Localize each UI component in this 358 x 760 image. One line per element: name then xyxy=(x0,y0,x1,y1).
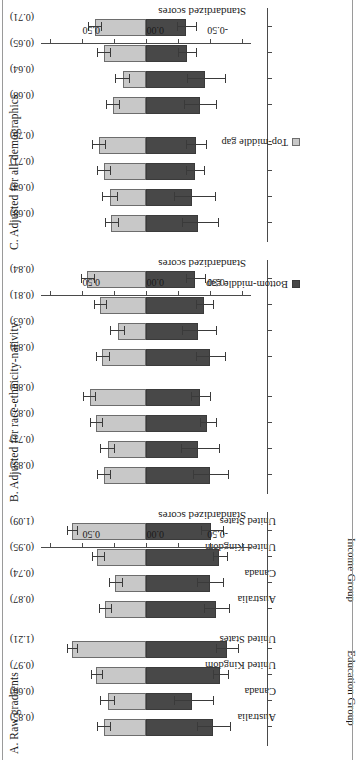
error-bar-cap xyxy=(110,327,111,336)
error-bar-cap xyxy=(97,167,98,176)
error-bar-cap xyxy=(105,219,106,228)
error-bar-cap xyxy=(196,353,197,362)
segment-top-middle-gap xyxy=(115,575,146,592)
value-tick xyxy=(146,39,147,44)
panel-c: C. Adjusted for all demographics(0.68)(0… xyxy=(0,2,358,250)
error-bar xyxy=(91,675,103,676)
rotated-canvas: AustraliaCanadaUnited KingdomUnited Stat… xyxy=(0,0,358,760)
error-bar-cap xyxy=(94,301,95,310)
segment-bottom-middle-gap xyxy=(146,667,220,684)
category-tick xyxy=(267,649,272,650)
error-bar xyxy=(213,675,228,676)
error-bar xyxy=(67,531,77,532)
error-bar-cap xyxy=(200,419,201,428)
error-bar-cap xyxy=(102,671,103,680)
error-bar-cap xyxy=(67,645,68,654)
segment-top-middle-gap xyxy=(111,215,146,232)
segment-bottom-middle-gap xyxy=(146,323,198,340)
error-bar-cap xyxy=(213,553,214,562)
error-bar-cap xyxy=(115,75,116,84)
bar-value-label: (0.68) xyxy=(10,209,34,220)
error-bar-cap xyxy=(228,471,229,480)
error-bar-cap xyxy=(67,527,68,536)
segment-bottom-middle-gap xyxy=(146,163,195,180)
error-bar-cap xyxy=(105,141,106,150)
legend-item[interactable]: Bottom-middle gap xyxy=(206,279,300,290)
error-bar-cap xyxy=(100,697,101,706)
legend-label: Bottom-middle gap xyxy=(206,279,288,290)
error-bar-cap xyxy=(129,75,130,84)
legend-item[interactable]: Top-middle gap xyxy=(221,137,300,148)
error-bar-cap xyxy=(187,75,188,84)
error-bar-cap xyxy=(77,527,78,536)
error-bar-cap xyxy=(197,579,198,588)
error-bar-cap xyxy=(230,723,231,732)
bar-value-label: (0.71) xyxy=(10,435,34,446)
error-bar-cap xyxy=(204,167,205,176)
error-bar xyxy=(97,475,110,476)
error-bar-cap xyxy=(110,167,111,176)
value-tick xyxy=(82,291,83,296)
bar-value-label: (0.85) xyxy=(10,713,34,724)
segment-bottom-middle-gap xyxy=(146,137,196,154)
category-axis xyxy=(267,512,268,746)
error-bar xyxy=(186,145,206,146)
error-bar-cap xyxy=(99,605,100,614)
bar-value-label: (0.65) xyxy=(10,39,34,50)
error-bar-cap xyxy=(216,419,217,428)
error-bar-cap xyxy=(225,75,226,84)
value-tick-label: -0.50 xyxy=(207,25,228,36)
error-bar xyxy=(196,357,225,358)
category-tick xyxy=(267,79,272,80)
error-bar xyxy=(186,171,204,172)
bar-value-label: (0.74) xyxy=(10,569,34,580)
error-bar-cap xyxy=(196,301,197,310)
value-tick-label: 0.50 xyxy=(83,25,101,36)
error-bar-cap xyxy=(110,49,111,58)
error-bar-cap xyxy=(229,605,230,614)
value-tick-label: 0.50 xyxy=(83,277,101,288)
value-tick xyxy=(82,543,83,548)
value-axis-title: Standardized scores xyxy=(158,258,246,270)
error-bar-cap xyxy=(174,193,175,202)
error-bar-cap xyxy=(97,723,98,732)
error-bar-cap xyxy=(100,445,101,454)
error-bar-cap xyxy=(92,141,93,150)
error-bar-cap xyxy=(197,723,198,732)
category-tick xyxy=(267,105,272,106)
panel-a: A. Raw gradients(0.85)(0.66)(0.97)(1.21)… xyxy=(0,506,358,754)
error-bar-cap xyxy=(196,23,197,32)
error-bar xyxy=(105,223,118,224)
segment-top-middle-gap xyxy=(110,189,146,206)
legend-swatch-icon xyxy=(292,138,300,146)
value-tick xyxy=(178,543,179,548)
value-tick xyxy=(114,291,115,296)
error-bar-cap xyxy=(186,167,187,176)
category-tick xyxy=(267,449,272,450)
error-bar-cap xyxy=(109,579,110,588)
error-bar-cap xyxy=(124,327,125,336)
plot-area: (0.83)(0.71)(0.87)(0.86)(0.84)(0.63)(0.8… xyxy=(30,254,268,502)
legend-swatch-icon xyxy=(292,280,300,288)
error-bar xyxy=(191,397,210,398)
bar-value-label: (0.84) xyxy=(10,343,34,354)
error-bar xyxy=(182,331,217,332)
value-tick-label: 0.50 xyxy=(83,529,101,540)
value-tick xyxy=(178,39,179,44)
error-bar-cap xyxy=(213,301,214,310)
error-bar-cap xyxy=(184,101,185,110)
error-bar-cap xyxy=(219,445,220,454)
error-bar-cap xyxy=(218,219,219,228)
error-bar-cap xyxy=(213,671,214,680)
segment-bottom-middle-gap xyxy=(146,641,227,658)
error-bar-cap xyxy=(182,327,183,336)
error-bar xyxy=(106,105,119,106)
value-tick-label: 0.00 xyxy=(147,529,165,540)
error-bar-cap xyxy=(191,393,192,402)
value-tick-label: 0.00 xyxy=(147,25,165,36)
error-bar-cap xyxy=(216,101,217,110)
segment-top-middle-gap xyxy=(72,641,146,658)
error-bar xyxy=(96,357,109,358)
error-bar-cap xyxy=(102,419,103,428)
category-tick xyxy=(267,423,272,424)
